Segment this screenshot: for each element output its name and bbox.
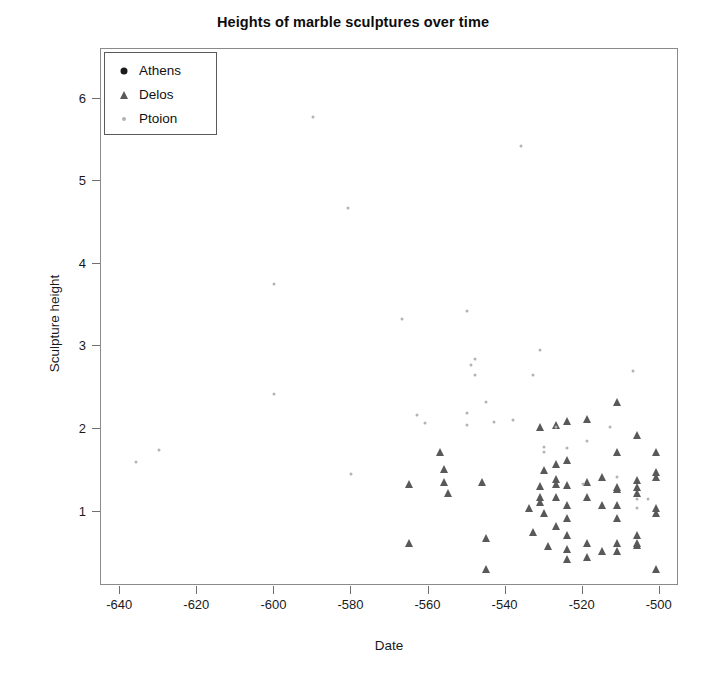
data-point-delos	[436, 448, 444, 456]
data-point-ptoion	[539, 348, 542, 351]
data-point-delos	[613, 398, 621, 406]
data-point-delos	[405, 480, 413, 488]
x-tick-mark	[659, 586, 660, 594]
data-point-ptoion	[581, 483, 584, 486]
data-point-delos	[563, 501, 571, 509]
data-point-ptoion	[466, 309, 469, 312]
data-point-delos	[536, 498, 544, 506]
data-point-ptoion	[635, 498, 638, 501]
data-point-delos	[563, 545, 571, 553]
data-point-delos	[613, 514, 621, 522]
x-tick-label: -600	[260, 597, 286, 612]
data-point-ptoion	[647, 498, 650, 501]
data-point-delos	[552, 460, 560, 468]
x-tick-mark	[582, 586, 583, 594]
x-tick-mark	[505, 586, 506, 594]
x-tick-label: -520	[569, 597, 595, 612]
data-point-ptoion	[608, 426, 611, 429]
y-tick-label: 3	[0, 338, 86, 353]
data-point-ptoion	[512, 418, 515, 421]
data-point-ptoion	[466, 412, 469, 415]
x-tick-mark	[273, 586, 274, 594]
data-point-delos	[536, 482, 544, 490]
data-point-ptoion	[493, 421, 496, 424]
data-point-ptoion	[469, 364, 472, 367]
x-tick-mark	[196, 586, 197, 594]
data-point-ptoion	[134, 461, 137, 464]
data-point-delos	[563, 555, 571, 563]
data-point-ptoion	[543, 451, 546, 454]
data-point-delos	[563, 456, 571, 464]
data-point-ptoion	[346, 207, 349, 210]
legend-item-athens: Athens	[105, 59, 216, 83]
x-tick-mark	[350, 586, 351, 594]
x-tick-label: -580	[337, 597, 363, 612]
data-point-delos	[598, 501, 606, 509]
data-point-ptoion	[635, 506, 638, 509]
x-tick-label: -540	[492, 597, 518, 612]
legend-label: Athens	[139, 59, 181, 83]
y-tick-label: 2	[0, 421, 86, 436]
legend-marker-icon	[113, 107, 135, 131]
data-point-ptoion	[473, 373, 476, 376]
x-tick-label: -620	[183, 597, 209, 612]
data-point-delos	[552, 480, 560, 488]
data-point-ptoion	[273, 283, 276, 286]
data-point-delos	[536, 423, 544, 431]
data-point-delos	[563, 514, 571, 522]
legend-label: Delos	[139, 83, 174, 107]
legend-label: Ptoion	[139, 107, 177, 131]
data-point-ptoion	[415, 413, 418, 416]
y-tick-label: 4	[0, 255, 86, 270]
data-point-delos	[552, 493, 560, 501]
data-point-delos	[613, 485, 621, 493]
data-point-delos	[444, 489, 452, 497]
y-tick-label: 1	[0, 503, 86, 518]
data-point-delos	[652, 565, 660, 573]
chart-title: Heights of marble sculptures over time	[0, 14, 706, 30]
data-point-delos	[633, 531, 641, 539]
data-point-delos	[652, 448, 660, 456]
data-point-ptoion	[311, 115, 314, 118]
legend-marker-icon	[113, 83, 135, 107]
y-tick-label: 5	[0, 173, 86, 188]
x-tick-label: -560	[415, 597, 441, 612]
data-point-delos	[482, 565, 490, 573]
data-point-delos	[529, 528, 537, 536]
y-tick-mark	[92, 180, 100, 181]
data-point-ptoion	[273, 393, 276, 396]
data-point-delos	[540, 466, 548, 474]
x-tick-label: -640	[106, 597, 132, 612]
y-tick-mark	[92, 511, 100, 512]
data-point-delos	[633, 431, 641, 439]
data-point-delos	[652, 509, 660, 517]
data-point-ptoion	[520, 145, 523, 148]
x-tick-label: -500	[646, 597, 672, 612]
data-point-ptoion	[157, 448, 160, 451]
data-point-delos	[525, 504, 533, 512]
y-tick-mark	[92, 428, 100, 429]
data-point-delos	[482, 534, 490, 542]
data-point-ptoion	[485, 400, 488, 403]
data-point-delos	[563, 531, 571, 539]
data-point-delos	[583, 553, 591, 561]
y-tick-mark	[92, 263, 100, 264]
data-point-delos	[613, 539, 621, 547]
data-point-delos	[598, 473, 606, 481]
data-point-ptoion	[423, 422, 426, 425]
data-point-delos	[633, 541, 641, 549]
legend: AthensDelosPtoion	[104, 52, 217, 135]
data-point-delos	[598, 547, 606, 555]
data-point-delos	[478, 478, 486, 486]
data-point-delos	[440, 465, 448, 473]
y-tick-mark	[92, 98, 100, 99]
legend-item-delos: Delos	[105, 83, 216, 107]
data-point-ptoion	[566, 447, 569, 450]
data-point-ptoion	[585, 440, 588, 443]
data-point-ptoion	[531, 374, 534, 377]
legend-marker-icon	[113, 59, 135, 83]
data-point-ptoion	[473, 357, 476, 360]
data-point-delos	[440, 478, 448, 486]
data-point-delos	[652, 473, 660, 481]
data-point-ptoion	[631, 370, 634, 373]
